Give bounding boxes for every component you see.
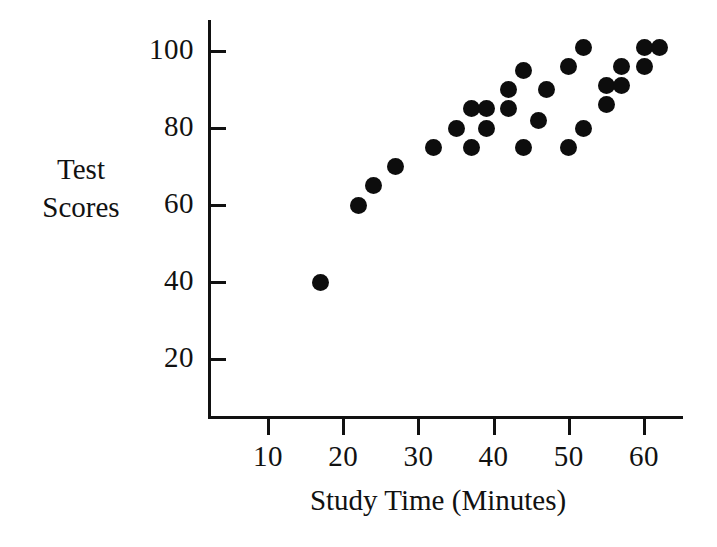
- data-point: [478, 100, 495, 117]
- plot-area: [0, 0, 717, 547]
- data-point: [575, 39, 592, 56]
- data-point: [500, 81, 517, 98]
- data-point: [365, 177, 382, 194]
- data-point: [387, 158, 404, 175]
- data-point: [350, 197, 367, 214]
- data-point: [478, 120, 495, 137]
- data-point: [651, 39, 668, 56]
- data-point: [538, 81, 555, 98]
- data-point: [560, 58, 577, 75]
- data-point: [500, 100, 517, 117]
- data-point: [515, 139, 532, 156]
- data-point: [560, 139, 577, 156]
- data-point: [530, 112, 547, 129]
- data-point: [425, 139, 442, 156]
- data-point: [598, 96, 615, 113]
- data-point: [312, 274, 329, 291]
- data-point: [575, 120, 592, 137]
- data-point: [463, 139, 480, 156]
- scatter-chart: Test Scores Study Time (Minutes) 2040608…: [0, 0, 717, 547]
- data-point: [613, 58, 630, 75]
- data-point: [636, 39, 653, 56]
- data-point: [636, 58, 653, 75]
- data-point: [613, 77, 630, 94]
- data-point: [515, 62, 532, 79]
- data-point: [463, 100, 480, 117]
- data-point: [448, 120, 465, 137]
